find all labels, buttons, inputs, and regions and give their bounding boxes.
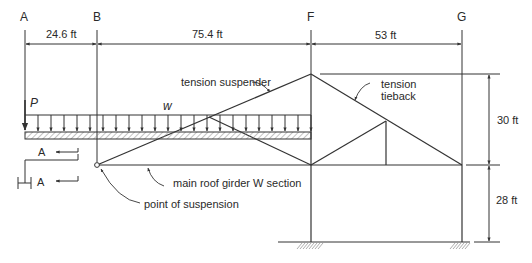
distributed-load-label: w <box>163 100 172 112</box>
gridline-label-g: G <box>457 11 466 23</box>
section-arrow-lower <box>56 176 78 181</box>
section-arrow-upper <box>56 148 78 152</box>
dim-label-fg: 53 ft <box>375 29 396 41</box>
suspender-diagonal-left <box>209 117 311 165</box>
distributed-load-arrows <box>38 115 311 131</box>
point-of-suspension-pin <box>95 163 100 168</box>
section-cut-line <box>25 154 78 183</box>
dim-label-upper-height: 30 ft <box>497 114 518 126</box>
gridline-label-f: F <box>307 11 314 23</box>
dim-label-lower-height: 28 ft <box>496 194 517 206</box>
section-mark-lower: A <box>37 176 44 188</box>
gridline-label-b: B <box>93 11 101 23</box>
truss-diagonal-right <box>311 121 386 165</box>
leader-point-of-suspension <box>101 169 140 203</box>
callout-point-of-suspension: point of suspension <box>144 198 239 210</box>
leader-tension-tieback <box>355 83 370 100</box>
callout-tension-tieback-line2: tieback <box>381 90 416 102</box>
dim-label-bf: 75.4 ft <box>192 28 223 40</box>
gridline-label-a: A <box>20 11 28 23</box>
section-mark-upper: A <box>38 146 45 158</box>
callout-tension-tieback-line1: tension <box>381 78 416 90</box>
ground-hatch-f <box>297 243 323 249</box>
structure-diagram <box>0 0 532 263</box>
callout-main-girder: main roof girder W section <box>173 177 301 189</box>
ground-hatch-g <box>450 243 470 249</box>
callout-tension-suspender: tension suspender <box>181 76 271 88</box>
point-load-label: P <box>30 97 38 109</box>
dim-label-ab: 24.6 ft <box>46 28 77 40</box>
roof-beam-hatched <box>25 132 311 139</box>
leader-main-girder <box>148 168 164 186</box>
